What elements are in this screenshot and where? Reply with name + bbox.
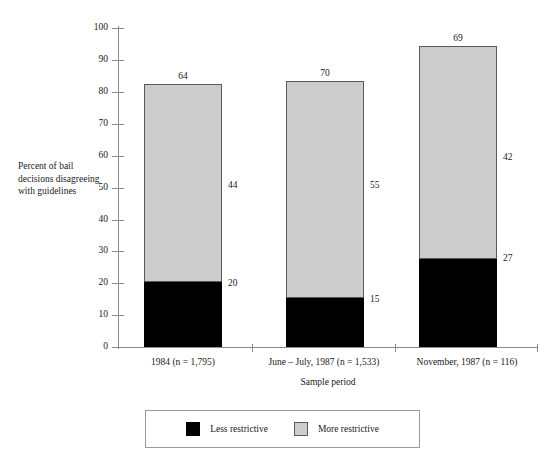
y-tick-label-20-wrap: 20 — [78, 278, 108, 288]
x-category-label-june-july-1987: June – July, 1987 (n = 1,533) — [245, 357, 403, 368]
x-tick-3 — [537, 344, 538, 352]
bar-less-label-november-1987: 27 — [503, 253, 513, 263]
y-tick-label-50: 50 — [82, 183, 108, 193]
x-tick-2 — [395, 344, 396, 352]
bar-more-label-1984: 44 — [228, 180, 238, 190]
legend-label-more-restrictive: More restrictive — [318, 424, 379, 434]
y-tick-label-100-wrap: 100 — [78, 23, 108, 33]
y-tick-label-10: 10 — [82, 310, 108, 320]
x-tick-1 — [252, 344, 253, 352]
y-tick-90 — [112, 60, 124, 61]
stacked-bar-chart: Percent of bail decisions disagreeing wi… — [0, 0, 559, 465]
y-tick-0 — [112, 347, 124, 348]
y-tick-label-60-wrap: 60 — [78, 151, 108, 161]
y-tick-50 — [112, 188, 124, 189]
bar-group-june-july-1987[interactable] — [286, 81, 364, 347]
y-tick-label-10-wrap: 10 — [78, 310, 108, 320]
x-category-label-november-1987: November, 1987 (n = 116) — [392, 357, 542, 368]
bar-total-label-november-1987: 69 — [419, 33, 497, 43]
y-tick-10 — [112, 315, 124, 316]
y-tick-100 — [112, 28, 124, 29]
bar-total-label-1984: 64 — [144, 71, 222, 81]
y-tick-label-30-wrap: 30 — [78, 246, 108, 256]
legend-item-less-restrictive[interactable]: Less restrictive — [186, 422, 268, 436]
y-tick-30 — [112, 251, 124, 252]
y-tick-label-50-wrap: 50 — [78, 183, 108, 193]
y-tick-label-20: 20 — [82, 278, 108, 288]
bar-segment-more-restrictive-november-1987[interactable] — [419, 46, 497, 259]
bar-segment-more-restrictive-june-july-1987[interactable] — [286, 81, 364, 298]
y-tick-70 — [112, 124, 124, 125]
bar-segment-less-restrictive-june-july-1987[interactable] — [286, 298, 364, 347]
x-axis-line — [118, 347, 538, 348]
legend-swatch-more-restrictive-icon — [294, 422, 308, 436]
bar-more-label-november-1987: 42 — [503, 152, 513, 162]
y-tick-label-90-wrap: 90 — [78, 55, 108, 65]
y-tick-60 — [112, 156, 124, 157]
y-tick-label-0: 0 — [82, 342, 108, 352]
y-tick-label-100: 100 — [82, 23, 108, 33]
bar-less-label-1984: 20 — [228, 278, 238, 288]
bar-total-label-june-july-1987: 70 — [286, 68, 364, 78]
legend-swatch-less-restrictive-icon — [186, 422, 200, 436]
y-tick-label-0-wrap: 0 — [78, 342, 108, 352]
y-tick-label-40: 40 — [82, 215, 108, 225]
y-tick-80 — [112, 92, 124, 93]
y-tick-label-80: 80 — [82, 87, 108, 97]
bar-group-november-1987[interactable] — [419, 46, 497, 347]
bar-group-1984[interactable] — [144, 84, 222, 347]
bar-segment-more-restrictive-1984[interactable] — [144, 84, 222, 282]
y-tick-label-60: 60 — [82, 151, 108, 161]
chart-legend: Less restrictive More restrictive — [145, 410, 420, 448]
legend-item-more-restrictive[interactable]: More restrictive — [294, 422, 379, 436]
bar-segment-less-restrictive-november-1987[interactable] — [419, 259, 497, 347]
y-tick-label-40-wrap: 40 — [78, 215, 108, 225]
x-axis-title: Sample period — [118, 377, 538, 388]
legend-label-less-restrictive: Less restrictive — [210, 424, 268, 434]
bar-less-label-june-july-1987: 15 — [370, 294, 380, 304]
y-tick-label-90: 90 — [82, 55, 108, 65]
y-tick-label-70-wrap: 70 — [78, 119, 108, 129]
y-tick-label-80-wrap: 80 — [78, 87, 108, 97]
y-tick-40 — [112, 220, 124, 221]
y-tick-label-30: 30 — [82, 246, 108, 256]
y-tick-20 — [112, 283, 124, 284]
legend-row: Less restrictive More restrictive — [146, 411, 419, 447]
bar-segment-less-restrictive-1984[interactable] — [144, 282, 222, 347]
y-tick-label-70: 70 — [82, 119, 108, 129]
x-category-label-1984: 1984 (n = 1,795) — [113, 357, 253, 368]
bar-more-label-june-july-1987: 55 — [370, 180, 380, 190]
